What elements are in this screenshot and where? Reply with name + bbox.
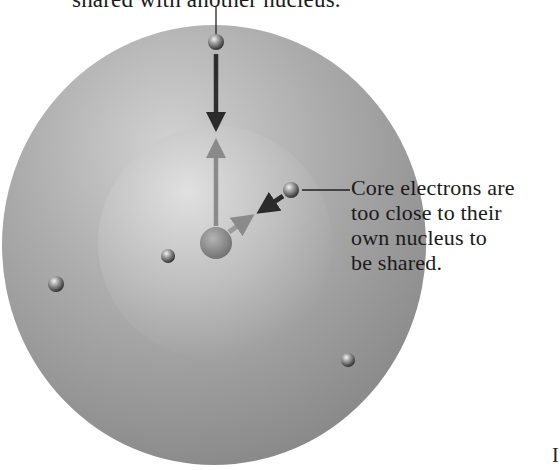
valence-electron-left <box>48 276 64 292</box>
core-caption-line-2: too close to their <box>351 200 515 225</box>
nucleus <box>200 227 232 259</box>
core-electron-upper-right <box>283 182 299 198</box>
core-caption-line-4: be shared. <box>351 250 515 275</box>
valence-electron-lower-right <box>341 353 355 367</box>
core-caption-line-1: Core electrons are <box>351 175 515 200</box>
core-electron-caption: Core electrons are too close to their ow… <box>351 175 515 275</box>
core-caption-line-3: own nucleus to <box>351 225 515 250</box>
valence-electron-caption: shared with another nucleus. <box>72 0 341 13</box>
valence-electron-top <box>208 34 224 50</box>
page-edge-character: I <box>552 444 559 467</box>
core-electron-inner-left <box>161 249 175 263</box>
